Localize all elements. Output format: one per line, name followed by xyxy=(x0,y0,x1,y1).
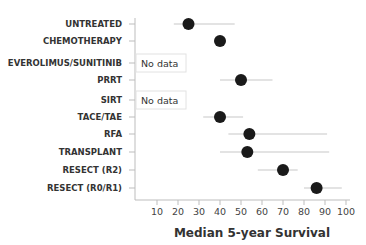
category-label: RFA xyxy=(104,129,122,139)
x-tick-label: 70 xyxy=(277,206,289,217)
x-tick-label: 20 xyxy=(172,206,184,217)
median-marker xyxy=(214,35,226,47)
median-marker xyxy=(277,164,289,176)
x-tick-label: 80 xyxy=(298,206,310,217)
x-axis-ticks: 102030405060708090100 xyxy=(151,200,355,217)
category-label: TRANSPLANT xyxy=(59,147,122,157)
x-tick-label: 30 xyxy=(193,206,205,217)
x-tick-label: 100 xyxy=(337,206,355,217)
x-axis-title: Median 5-year Survival xyxy=(174,226,330,240)
x-tick-label: 10 xyxy=(151,206,163,217)
category-label: RESECT (R0/R1) xyxy=(47,183,122,193)
category-label: TACE/TAE xyxy=(78,112,123,122)
median-marker xyxy=(183,18,195,30)
x-tick-label: 50 xyxy=(235,206,247,217)
category-label: PRRT xyxy=(97,75,122,85)
median-marker xyxy=(243,128,255,140)
category-label: CHEMOTHERAPY xyxy=(43,36,123,46)
category-label: UNTREATED xyxy=(65,19,122,29)
y-axis-labels: UNTREATEDCHEMOTHERAPYEVEROLIMUS/SUNITINI… xyxy=(8,19,135,193)
median-marker xyxy=(214,111,226,123)
no-data-label: No data xyxy=(141,58,178,69)
median-marker xyxy=(235,74,247,86)
data-points: No dataNo data xyxy=(136,18,342,194)
x-tick-label: 40 xyxy=(214,206,226,217)
median-marker xyxy=(311,182,323,194)
category-label: EVEROLIMUS/SUNITINIB xyxy=(8,58,122,68)
x-tick-label: 90 xyxy=(319,206,331,217)
x-tick-label: 60 xyxy=(256,206,268,217)
category-label: SIRT xyxy=(101,95,122,105)
median-marker xyxy=(241,146,253,158)
no-data-label: No data xyxy=(141,95,178,106)
forest-plot: UNTREATEDCHEMOTHERAPYEVEROLIMUS/SUNITINI… xyxy=(0,0,366,245)
category-label: RESECT (R2) xyxy=(62,165,122,175)
